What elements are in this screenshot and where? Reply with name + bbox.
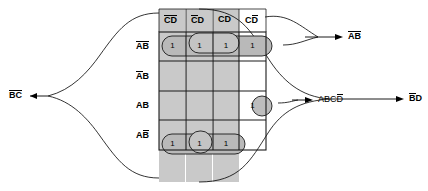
cell-r1c2: 1 — [186, 42, 213, 50]
leader-curves-left — [48, 13, 159, 178]
ann-fl-c: C — [16, 90, 23, 100]
kmap-canvas — [0, 0, 428, 191]
annotation-mid-right-abcd: ABCD — [318, 94, 343, 104]
ann-tr-b: B — [355, 31, 362, 41]
cell-r4c1: 1 — [159, 140, 186, 148]
row-header-ab-11: AB — [136, 101, 149, 110]
row-header-ab-00: AB — [136, 41, 149, 51]
cell-r1c4: 1 — [239, 42, 266, 50]
column-header-cd-11: CD — [218, 15, 231, 24]
annotation-far-left-bc: BC — [9, 90, 22, 100]
col1-d: D — [171, 15, 178, 25]
annotation-top-right-ab: AB — [348, 31, 361, 41]
row-header-ab-10: AB — [136, 130, 149, 140]
arrow-left — [30, 93, 48, 99]
annotation-far-right-bd: BD — [409, 93, 422, 103]
column-header-cd-00: CD — [164, 15, 177, 25]
cell-r4c2: 1 — [186, 140, 213, 148]
row3-b: B — [143, 101, 150, 110]
karnaugh-map-figure: CD CD CD CD AB AB AB AB 1 1 1 1 1 1 1 1 … — [0, 0, 428, 191]
ann-fr-d: D — [416, 94, 423, 103]
row-header-ab-01: AB — [136, 71, 149, 81]
row1-b: B — [143, 41, 150, 51]
row4-b: B — [143, 130, 150, 140]
ann-mr-abc: ABC — [318, 95, 337, 104]
column-header-cd-10: CD — [245, 15, 258, 25]
col3-d: D — [225, 15, 232, 24]
leader-top-right — [265, 16, 318, 45]
col2-d: D — [198, 16, 205, 25]
cell-r1c3: 1 — [213, 42, 239, 50]
ann-mr-d: D — [337, 94, 344, 104]
col4-d: D — [252, 15, 259, 25]
cell-r1c1: 1 — [159, 42, 186, 50]
cell-r3c4: 1 — [239, 102, 266, 110]
column-header-cd-01: CD — [191, 15, 204, 25]
row2-b: B — [143, 72, 150, 81]
cell-r4c3: 1 — [213, 140, 239, 148]
